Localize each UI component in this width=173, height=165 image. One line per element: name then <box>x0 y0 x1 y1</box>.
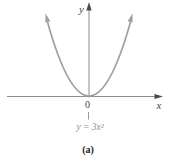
function-graph: y x 0 y = 3x² (a) <box>0 0 173 165</box>
figure-caption: (a) <box>82 144 94 156</box>
parabola-right-arrowhead <box>128 12 135 22</box>
y-axis-label: y <box>78 3 84 15</box>
parabola-left-arrowhead <box>43 12 50 22</box>
equation-label: y = 3x² <box>75 122 103 132</box>
parabola-figure: y x 0 y = 3x² (a) <box>0 0 173 165</box>
x-axis-label: x <box>156 99 162 111</box>
origin-label: 0 <box>85 99 90 110</box>
y-axis-arrowhead <box>86 2 91 11</box>
